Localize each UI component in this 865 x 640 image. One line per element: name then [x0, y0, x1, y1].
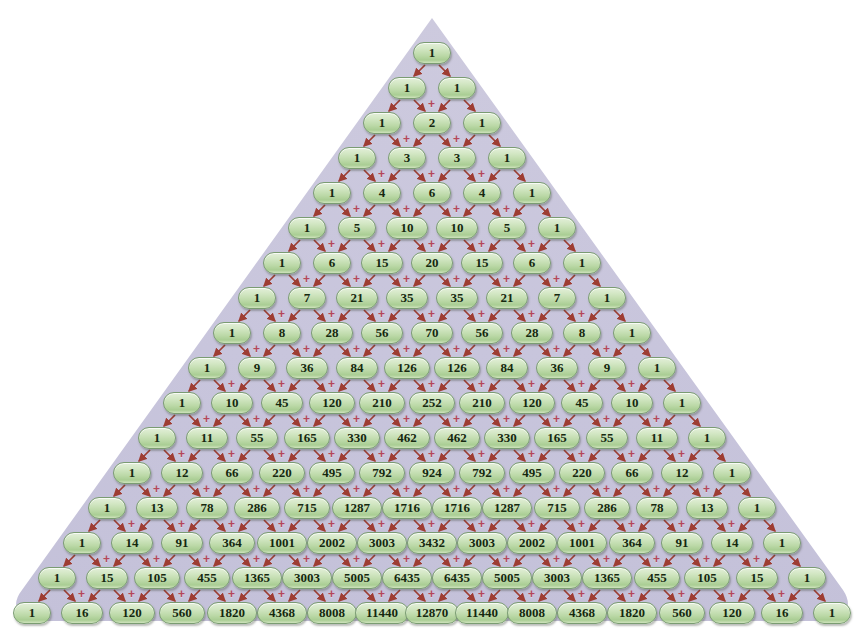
pascal-cell: 1	[238, 287, 276, 309]
plus-operator-icon: +	[428, 378, 435, 390]
plus-operator-icon: +	[378, 168, 385, 180]
pascal-cell: 1	[663, 392, 701, 414]
plus-operator-icon: +	[553, 483, 560, 495]
pascal-cell: 6	[513, 252, 551, 274]
pascal-cell: 9	[588, 357, 626, 379]
plus-operator-icon: +	[303, 273, 310, 285]
plus-operator-icon: +	[703, 553, 710, 565]
pascal-cell: 286	[584, 497, 630, 519]
plus-operator-icon: +	[353, 553, 360, 565]
pascal-cell: 8	[563, 322, 601, 344]
pascal-cell: 1	[588, 287, 626, 309]
plus-operator-icon: +	[528, 588, 535, 600]
pascal-cell: 15	[461, 252, 503, 274]
plus-operator-icon: +	[278, 448, 285, 460]
plus-operator-icon: +	[228, 378, 235, 390]
plus-operator-icon: +	[678, 518, 685, 530]
pascal-cell: 6	[313, 252, 351, 274]
pascal-cell: 220	[259, 462, 305, 484]
pascal-cell: 455	[634, 567, 680, 589]
plus-operator-icon: +	[603, 343, 610, 355]
plus-operator-icon: +	[578, 308, 585, 320]
plus-operator-icon: +	[103, 553, 110, 565]
pascal-cell: 126	[384, 357, 430, 379]
pascal-cell: 91	[661, 532, 703, 554]
plus-operator-icon: +	[428, 448, 435, 460]
plus-operator-icon: +	[303, 553, 310, 565]
plus-operator-icon: +	[328, 588, 335, 600]
pascal-cell: 1	[388, 77, 426, 99]
plus-operator-icon: +	[428, 98, 435, 110]
pascal-cell: 1	[338, 147, 376, 169]
plus-operator-icon: +	[303, 343, 310, 355]
plus-operator-icon: +	[353, 343, 360, 355]
plus-operator-icon: +	[728, 518, 735, 530]
plus-operator-icon: +	[628, 378, 635, 390]
pascal-cell: 1	[288, 217, 326, 239]
pascal-cell: 84	[486, 357, 528, 379]
plus-operator-icon: +	[428, 238, 435, 250]
plus-operator-icon: +	[403, 553, 410, 565]
pascal-cell: 1	[413, 42, 451, 64]
pascal-cell: 126	[434, 357, 480, 379]
pascal-cell: 2002	[307, 532, 357, 554]
plus-operator-icon: +	[478, 448, 485, 460]
pascal-cell: 210	[359, 392, 405, 414]
pascal-cell: 1	[788, 567, 826, 589]
plus-operator-icon: +	[603, 483, 610, 495]
pascal-cell: 8008	[507, 602, 557, 624]
pascal-cell: 3	[388, 147, 426, 169]
pascal-cell: 78	[186, 497, 228, 519]
plus-operator-icon: +	[453, 343, 460, 355]
pascal-cell: 35	[436, 287, 478, 309]
pascal-cell: 35	[386, 287, 428, 309]
pascal-cell: 792	[359, 462, 405, 484]
plus-operator-icon: +	[453, 273, 460, 285]
pascal-cell: 1	[488, 147, 526, 169]
plus-operator-icon: +	[353, 483, 360, 495]
pascal-cell: 560	[159, 602, 205, 624]
pascal-cell: 1	[363, 112, 401, 134]
plus-operator-icon: +	[228, 448, 235, 460]
pascal-cell: 1	[738, 497, 776, 519]
plus-operator-icon: +	[278, 308, 285, 320]
plus-operator-icon: +	[453, 203, 460, 215]
pascal-cell: 16	[761, 602, 803, 624]
pascal-cell: 13	[136, 497, 178, 519]
pascal-cell: 10	[386, 217, 428, 239]
pascal-cell: 120	[709, 602, 755, 624]
pascal-cell: 5005	[482, 567, 532, 589]
plus-operator-icon: +	[128, 518, 135, 530]
pascal-cell: 15	[86, 567, 128, 589]
pascal-cell: 15	[361, 252, 403, 274]
pascal-cell: 1	[813, 602, 851, 624]
pascals-triangle-figure: ++++++++++++++++++++++++++++++++++++++++…	[0, 0, 865, 640]
pascal-cell: 792	[459, 462, 505, 484]
pascal-cell: 1	[63, 532, 101, 554]
pascal-cell: 36	[286, 357, 328, 379]
pascal-cell: 210	[459, 392, 505, 414]
pascal-cell: 165	[534, 427, 580, 449]
plus-operator-icon: +	[753, 553, 760, 565]
plus-operator-icon: +	[328, 378, 335, 390]
plus-operator-icon: +	[328, 518, 335, 530]
pascal-cell: 1001	[557, 532, 607, 554]
plus-operator-icon: +	[553, 273, 560, 285]
pascal-cell: 7	[538, 287, 576, 309]
plus-operator-icon: +	[353, 413, 360, 425]
plus-operator-icon: +	[253, 553, 260, 565]
pascal-cell: 220	[559, 462, 605, 484]
pascal-cell: 1	[38, 567, 76, 589]
plus-operator-icon: +	[553, 413, 560, 425]
plus-operator-icon: +	[253, 343, 260, 355]
plus-operator-icon: +	[328, 448, 335, 460]
pascal-cell: 5	[338, 217, 376, 239]
plus-operator-icon: +	[478, 518, 485, 530]
pascal-cell: 6	[413, 182, 451, 204]
plus-operator-icon: +	[453, 483, 460, 495]
plus-operator-icon: +	[128, 588, 135, 600]
pascal-cell: 56	[461, 322, 503, 344]
plus-operator-icon: +	[203, 413, 210, 425]
pascal-cell: 462	[434, 427, 480, 449]
plus-operator-icon: +	[153, 553, 160, 565]
